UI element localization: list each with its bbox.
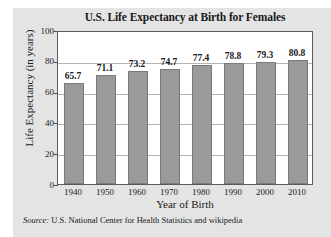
x-tick-label: 1980 <box>185 187 217 197</box>
bar-value-label: 71.1 <box>89 63 121 73</box>
bar-value-label: 65.7 <box>57 71 89 81</box>
y-tick-label: 20 <box>32 150 54 159</box>
bar-value-label: 78.8 <box>217 51 249 61</box>
y-tick-label: 100 <box>32 27 54 36</box>
x-tick-label: 2000 <box>249 187 281 197</box>
x-tick-label: 1960 <box>121 187 153 197</box>
bar <box>160 69 180 184</box>
y-axis-ticks: 020406080100 <box>29 31 54 185</box>
y-tick-mark <box>54 185 58 186</box>
x-tick-label: 1990 <box>217 187 249 197</box>
bar-value-label: 80.8 <box>281 48 313 58</box>
bar <box>288 60 308 184</box>
bar <box>96 75 116 184</box>
bar-value-label: 74.7 <box>153 57 185 67</box>
y-tick-label: 40 <box>32 119 54 128</box>
x-tick-label: 1970 <box>153 187 185 197</box>
y-tick-label: 0 <box>32 181 54 190</box>
bar <box>224 63 244 184</box>
x-tick-label: 1940 <box>57 187 89 197</box>
bar-value-label: 77.4 <box>185 53 217 63</box>
bar <box>256 62 276 184</box>
bar-value-label: 73.2 <box>121 59 153 69</box>
bar-value-label: 79.3 <box>249 50 281 60</box>
y-tick-label: 60 <box>32 88 54 97</box>
source-text: U.S. National Center for Health Statisti… <box>51 215 242 225</box>
x-axis-title: Year of Birth <box>57 198 313 210</box>
bar <box>64 83 84 184</box>
y-tick-label: 80 <box>32 57 54 66</box>
x-tick-label: 2010 <box>281 187 313 197</box>
source-prefix: Source: <box>23 215 49 225</box>
bar <box>192 65 212 184</box>
source-note: Source: U.S. National Center for Health … <box>23 215 242 225</box>
chart-title: U.S. Life Expectancy at Birth for Female… <box>50 11 320 23</box>
figure-container: U.S. Life Expectancy at Birth for Female… <box>0 0 331 237</box>
x-tick-label: 1950 <box>89 187 121 197</box>
bar <box>128 71 148 184</box>
